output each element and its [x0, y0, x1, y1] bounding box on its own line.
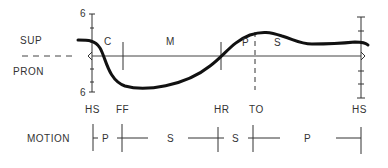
event-to: TO — [249, 104, 264, 115]
gait-diagram: SUP PRON 6 6 C M P S HS FF HR TO HS MOTI… — [0, 0, 388, 168]
event-ff: FF — [116, 104, 129, 115]
phase-m-label: M — [166, 36, 175, 47]
pron-label: PRON — [13, 66, 44, 77]
motion-seg-3: S — [232, 133, 239, 144]
sup-label: SUP — [20, 35, 42, 46]
phase-c-label: C — [104, 36, 112, 47]
rotation-curve — [78, 32, 368, 88]
motion-seg-1: P — [102, 133, 109, 144]
event-hr: HR — [214, 104, 229, 115]
left-zero-marker — [88, 52, 92, 60]
bottom-tick-value: 6 — [80, 87, 86, 98]
event-hs-end: HS — [352, 104, 367, 115]
phase-s-label: S — [274, 37, 281, 48]
top-tick-value: 6 — [80, 8, 86, 19]
motion-label: MOTION — [27, 133, 70, 144]
motion-seg-2: S — [167, 133, 174, 144]
motion-seg-4: P — [304, 133, 311, 144]
phase-p-label: P — [242, 37, 249, 48]
event-hs-start: HS — [85, 104, 100, 115]
right-zero-marker — [361, 52, 365, 60]
motion-timeline — [93, 124, 361, 154]
